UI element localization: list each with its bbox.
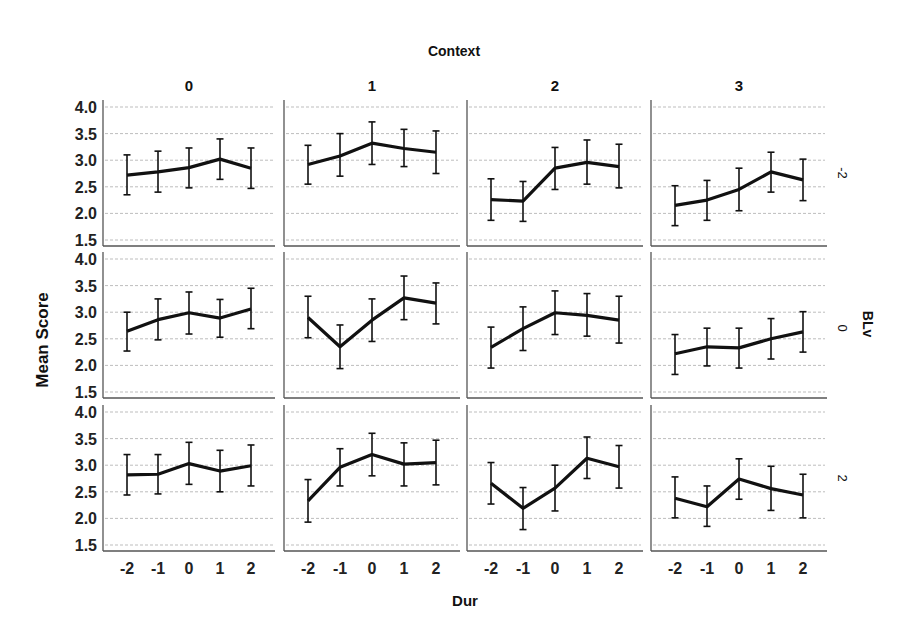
column-variable-title: Context — [0, 43, 908, 59]
panel-blv2-context0 — [103, 405, 275, 551]
row-header-2: 2 — [835, 474, 850, 481]
x-tick-label: 1 — [216, 560, 225, 577]
column-header-1: 1 — [368, 77, 376, 94]
y-axis-label: Mean Score — [33, 275, 53, 405]
panel-blv2-context2 — [467, 405, 643, 551]
panel-blv0-context2 — [467, 252, 643, 398]
row-header--2: -2 — [835, 167, 850, 179]
y-tick-label: 2.0 — [75, 357, 97, 374]
x-tick-label: -1 — [700, 560, 714, 577]
y-tick-label: 2.5 — [75, 179, 97, 196]
panel-blv-2-context1 — [284, 100, 460, 246]
x-tick-label: -2 — [668, 560, 682, 577]
y-tick-label: 2.5 — [75, 484, 97, 501]
y-tick-label: 3.0 — [75, 457, 97, 474]
x-tick-label: -2 — [120, 560, 134, 577]
row-variable-label: BLv — [860, 304, 876, 344]
panel-blv-2-context0 — [103, 100, 275, 246]
panel-blv2-context1 — [284, 405, 460, 551]
x-tick-label: 1 — [583, 560, 592, 577]
panel-blv0-context1 — [284, 252, 460, 398]
panel-blv2-context3 — [651, 405, 827, 551]
y-tick-label: 2.0 — [75, 510, 97, 527]
x-tick-label: 2 — [799, 560, 808, 577]
x-tick-label: -1 — [151, 560, 165, 577]
y-tick-label: 3.5 — [75, 278, 97, 295]
y-tick-label: 3.5 — [75, 126, 97, 143]
panel-blv-2-context2 — [467, 100, 643, 246]
y-tick-label: 2.0 — [75, 205, 97, 222]
x-tick-label: -1 — [333, 560, 347, 577]
x-axis-label: Dur — [0, 592, 908, 609]
column-header-0: 0 — [185, 77, 193, 94]
faceted-line-chart: 0123-2021.52.02.53.03.54.01.52.02.53.03.… — [0, 0, 908, 643]
y-tick-label: 3.0 — [75, 152, 97, 169]
x-tick-label: 0 — [735, 560, 744, 577]
x-tick-label: 0 — [368, 560, 377, 577]
x-tick-label: 2 — [247, 560, 256, 577]
x-tick-label: 1 — [767, 560, 776, 577]
x-tick-label: 2 — [615, 560, 624, 577]
x-tick-label: -1 — [516, 560, 530, 577]
x-tick-label: 1 — [400, 560, 409, 577]
x-tick-label: -2 — [301, 560, 315, 577]
y-tick-label: 3.5 — [75, 431, 97, 448]
panel-blv0-context0 — [103, 252, 275, 398]
y-tick-label: 1.5 — [75, 232, 97, 249]
x-tick-label: -2 — [484, 560, 498, 577]
y-tick-label: 1.5 — [75, 384, 97, 401]
x-tick-label: 2 — [432, 560, 441, 577]
y-tick-label: 2.5 — [75, 331, 97, 348]
x-tick-label: 0 — [185, 560, 194, 577]
panel-blv-2-context3 — [651, 100, 827, 246]
y-tick-label: 4.0 — [75, 404, 97, 421]
y-tick-label: 3.0 — [75, 304, 97, 321]
x-tick-label: 0 — [551, 560, 560, 577]
y-tick-label: 1.5 — [75, 537, 97, 554]
column-header-2: 2 — [551, 77, 559, 94]
column-header-3: 3 — [735, 77, 743, 94]
y-tick-label: 4.0 — [75, 251, 97, 268]
row-header-0: 0 — [835, 324, 850, 331]
panel-blv0-context3 — [651, 252, 827, 398]
y-tick-label: 4.0 — [75, 99, 97, 116]
